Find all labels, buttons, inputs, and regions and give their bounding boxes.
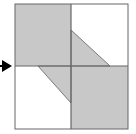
quadrant-square-diagram [0, 0, 136, 134]
top-left-quadrant-fill [15, 4, 71, 66]
figure-container: Square divided into four quadrants by a … [0, 0, 136, 134]
bottom-right-quadrant-fill [71, 66, 128, 129]
